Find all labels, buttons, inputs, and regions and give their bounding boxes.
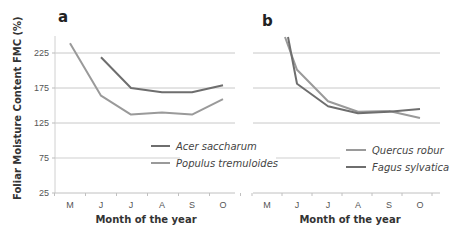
x-tick-label: S	[189, 200, 195, 210]
x-tick-label: J	[295, 200, 300, 210]
x-tick-label: J	[99, 200, 104, 210]
y-tick-label: 175	[34, 83, 49, 93]
legend-label: Quercus robur	[372, 145, 445, 156]
x-tick-label: M	[66, 200, 74, 210]
panel-a: a2575125175225MJJASOMonth of the yearAce…	[34, 8, 278, 225]
y-tick-label: 25	[39, 188, 49, 198]
panel-b: bMJJASOMonth of the yearQuercus roburFag…	[252, 12, 449, 225]
series-line	[101, 57, 223, 92]
x-tick-label: O	[219, 200, 226, 210]
fmc-chart: a2575125175225MJJASOMonth of the yearAce…	[0, 0, 452, 245]
y-axis-title: Foliar Moisture Content FMC (%)	[12, 16, 23, 200]
y-tick-label: 125	[34, 118, 49, 128]
x-tick-label: A	[159, 200, 165, 210]
x-tick-label: S	[386, 200, 392, 210]
x-tick-label: J	[326, 200, 331, 210]
x-tick-label: M	[263, 200, 271, 210]
legend-label: Populus tremuloides	[176, 158, 278, 169]
legend-label: Fagus sylvatica	[372, 162, 449, 173]
panel-label: a	[58, 8, 68, 26]
y-tick-label: 75	[39, 153, 49, 163]
y-tick-label: 225	[34, 48, 49, 58]
x-axis-title: Month of the year	[95, 214, 196, 225]
legend-label: Acer saccharum	[175, 141, 257, 152]
panel-label: b	[262, 12, 273, 30]
series-line	[288, 37, 420, 113]
series-line	[285, 37, 420, 118]
x-axis-title: Month of the year	[299, 214, 400, 225]
x-tick-label: J	[129, 200, 134, 210]
x-tick-label: O	[416, 200, 423, 210]
x-tick-label: A	[355, 200, 361, 210]
series-line	[70, 43, 223, 114]
